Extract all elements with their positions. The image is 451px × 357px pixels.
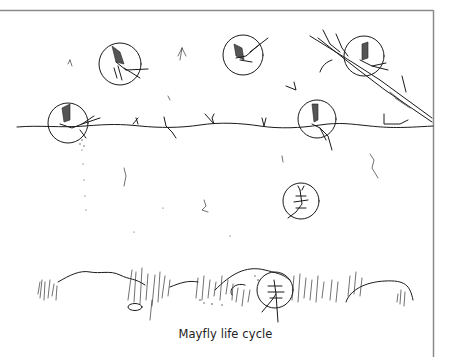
vegetation: [38, 268, 405, 320]
stage-nymph-swimming: [283, 183, 319, 219]
stage-adult-flying-1: [99, 43, 148, 85]
stream-bed: [58, 269, 413, 311]
small-insects: [68, 48, 408, 237]
figure-frame: [0, 10, 434, 357]
mayfly-life-cycle-illustration: [0, 0, 451, 357]
figure-caption: Mayfly life cycle: [0, 327, 451, 341]
stage-adult-flying-2: [223, 35, 268, 75]
stage-nymph-bottom: [257, 272, 293, 322]
stage-spent-adult-left: [48, 103, 100, 147]
stage-subimago-on-branch: [344, 36, 388, 76]
branch: [310, 30, 432, 122]
